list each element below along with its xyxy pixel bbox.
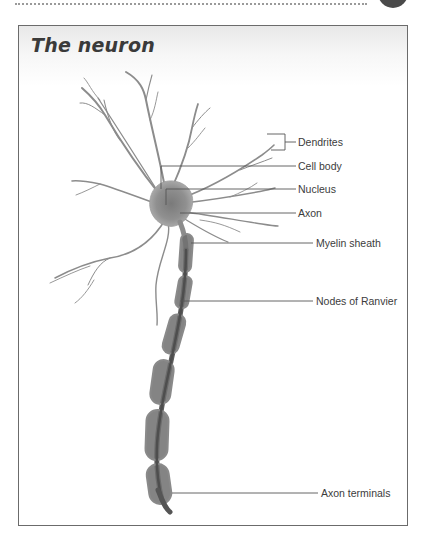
neuron-illustration: [0, 0, 430, 546]
label-nucleus: Nucleus: [298, 183, 336, 195]
label-cell-body: Cell body: [298, 160, 342, 172]
label-nodes-of-ranvier: Nodes of Ranvier: [316, 295, 397, 307]
label-dendrites: Dendrites: [298, 136, 343, 148]
label-axon-terminals: Axon terminals: [321, 487, 390, 499]
label-axon: Axon: [298, 207, 322, 219]
label-myelin-sheath: Myelin sheath: [316, 237, 381, 249]
